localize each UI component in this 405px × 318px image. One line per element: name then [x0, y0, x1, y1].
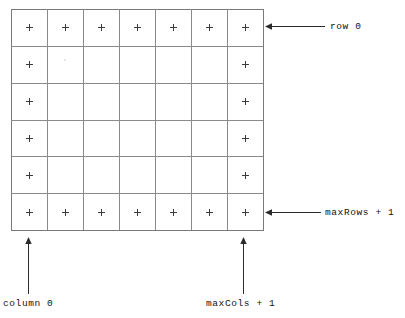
scan-speck	[64, 59, 65, 60]
annotation-arrow-head	[265, 209, 272, 215]
annotation-arrow-head	[265, 23, 272, 29]
annotation-label-row-0: row 0	[330, 21, 362, 32]
annotation-arrow-head	[240, 237, 246, 244]
annotation-label-column-0: column 0	[3, 298, 53, 309]
annotation-arrow-head	[25, 237, 31, 244]
grid-table	[11, 9, 264, 231]
diagram-canvas: row 0 maxRows + 1 column 0 maxCols + 1	[0, 0, 405, 318]
annotation-label-max-cols: maxCols + 1	[206, 298, 275, 309]
grid-diagram-svg	[0, 0, 405, 318]
annotation-arrows	[25, 23, 325, 294]
annotation-label-max-rows: maxRows + 1	[325, 207, 394, 218]
